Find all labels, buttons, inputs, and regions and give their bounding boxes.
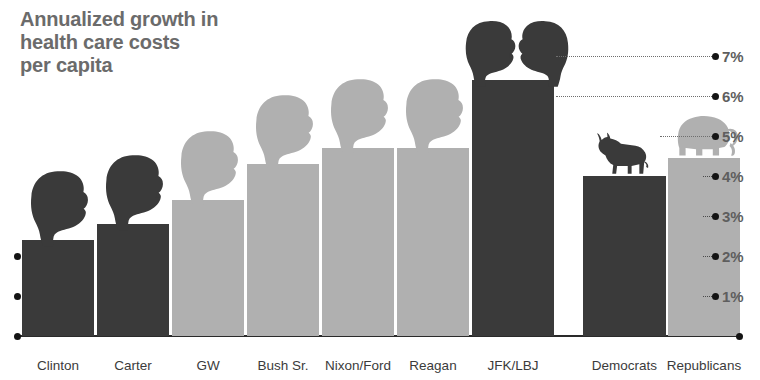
y-axis-tick-dot bbox=[712, 173, 719, 180]
y-axis-tick-label-3pct: 3% bbox=[722, 209, 744, 224]
y-axis-tick-label-5pct: 5% bbox=[722, 129, 744, 144]
y-axis-tick-dot bbox=[712, 93, 719, 100]
y-axis-tick-label-4pct: 4% bbox=[722, 169, 744, 184]
chart-root: Annualized growth in health care costs p… bbox=[0, 0, 760, 380]
bar-jfk-lbj[interactable] bbox=[472, 80, 554, 336]
y-axis-tick-dot bbox=[712, 213, 719, 220]
donkey-icon bbox=[591, 132, 649, 176]
gridline-leader bbox=[660, 136, 712, 137]
left-axis-tick-dot bbox=[14, 293, 21, 300]
gridline-leader bbox=[556, 96, 712, 97]
bar-nixon-ford[interactable] bbox=[322, 148, 394, 336]
bar-gw[interactable] bbox=[172, 200, 244, 336]
head-silhouette-icon bbox=[462, 20, 520, 88]
bar-reagan[interactable] bbox=[397, 148, 469, 336]
bar-bush-sr[interactable] bbox=[247, 164, 319, 336]
head-silhouette-icon bbox=[327, 78, 393, 156]
y-axis-tick-label-6pct: 6% bbox=[722, 89, 744, 104]
gridline-leader bbox=[556, 56, 712, 57]
head-silhouette-icon bbox=[252, 94, 318, 172]
y-axis-tick-dot bbox=[712, 133, 719, 140]
category-label-republicans: Republicans bbox=[656, 359, 752, 373]
tick-stub bbox=[703, 256, 712, 257]
tick-stub bbox=[703, 216, 712, 217]
category-label-jfk-lbj: JFK/LBJ bbox=[460, 359, 566, 373]
left-axis-tick-dot bbox=[14, 253, 21, 260]
plot-area: ClintonCarterGWBush Sr.Nixon/FordReaganJ… bbox=[0, 0, 760, 380]
tick-stub bbox=[703, 176, 712, 177]
y-axis-tick-label-7pct: 7% bbox=[722, 49, 744, 64]
y-axis-tick-dot bbox=[712, 293, 719, 300]
head-silhouette-icon bbox=[177, 130, 243, 208]
axis-end-dot bbox=[736, 333, 743, 340]
head-silhouette-icon bbox=[402, 78, 468, 156]
head-silhouette-icon bbox=[102, 154, 168, 232]
y-axis-tick-dot bbox=[712, 253, 719, 260]
axis-origin-dot bbox=[14, 333, 21, 340]
y-axis-tick-label-2pct: 2% bbox=[722, 249, 744, 264]
bar-clinton[interactable] bbox=[22, 240, 94, 336]
bar-democrats[interactable] bbox=[583, 176, 666, 336]
tick-stub bbox=[703, 296, 712, 297]
y-axis-tick-dot bbox=[712, 53, 719, 60]
head-silhouette-icon bbox=[514, 20, 572, 88]
head-silhouette-icon bbox=[27, 170, 93, 248]
bar-carter[interactable] bbox=[97, 224, 169, 336]
y-axis-tick-label-1pct: 1% bbox=[722, 289, 744, 304]
